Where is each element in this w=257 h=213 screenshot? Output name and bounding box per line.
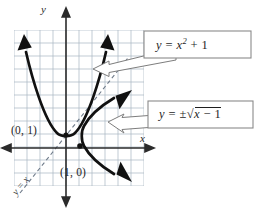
y-axis-label: y bbox=[41, 3, 46, 15]
callout1-lhs: y bbox=[156, 38, 162, 52]
callout2-radical-sign: √ bbox=[187, 107, 194, 121]
callout2-radical-group: √x − 1 bbox=[187, 106, 221, 122]
callout2-minus: − bbox=[203, 107, 210, 121]
callout1-equals: = bbox=[165, 38, 172, 52]
callout1-plus: + bbox=[191, 38, 198, 52]
callout2-plus-minus: ± bbox=[179, 107, 186, 121]
radical-vinculum bbox=[195, 107, 221, 108]
x-axis-label: x bbox=[140, 132, 145, 144]
point-label-0-1: (0, 1) bbox=[11, 124, 37, 136]
callout2-radicand-variable: x bbox=[194, 107, 200, 121]
callout1-exponent: 2 bbox=[182, 36, 187, 46]
grid-lines bbox=[14, 30, 144, 186]
point-label-1-0: (1, 0) bbox=[60, 166, 86, 178]
callout-parabola-text: y = x2 + 1 bbox=[156, 36, 208, 53]
callout-inverse-text: y = ±√x − 1 bbox=[159, 106, 221, 122]
callout1-constant: 1 bbox=[202, 38, 209, 52]
callout2-equals: = bbox=[168, 107, 175, 121]
callout2-lhs: y bbox=[159, 107, 165, 121]
callout2-radicand-constant: 1 bbox=[214, 107, 221, 121]
graph-figure: y x (0, 1) (1, 0) y = x y = x2 + 1 y = ±… bbox=[0, 0, 257, 213]
